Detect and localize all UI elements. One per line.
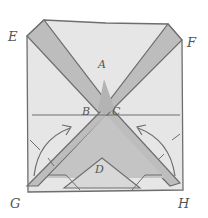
label-c: C [112, 106, 120, 117]
label-d: D [95, 164, 104, 175]
label-h: H [178, 197, 189, 210]
label-g: G [10, 197, 20, 210]
label-b: B [82, 106, 90, 117]
label-f: F [187, 36, 196, 49]
label-e: E [8, 30, 18, 43]
origami-diagram [0, 0, 208, 218]
label-a: A [98, 59, 106, 70]
